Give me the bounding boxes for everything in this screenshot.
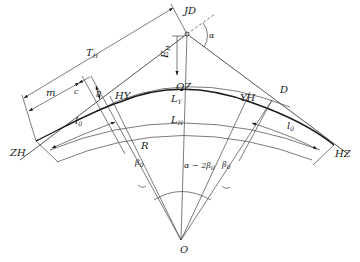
beta0-left-arc [138,185,146,187]
label-o: O [180,244,188,255]
label-c: c [74,87,79,96]
label-hz: HZ [334,148,352,159]
alpha-arc [203,23,208,47]
zh-extension-line [36,141,58,162]
th-extension-left [22,95,36,141]
right-tangent-line [187,34,348,154]
label-m: m [46,87,55,98]
lh-arc [57,135,312,162]
th-dimension-line [24,8,173,98]
label-p: p [96,88,101,97]
label-l0-left: l0 [75,115,82,127]
center-line [181,34,187,240]
label-hy: HY [114,90,132,101]
curve-diagram: JD α TH EH m c p HY QZ YH D ZH HZ LY LH … [0,0,360,262]
ly-arc [50,123,320,150]
label-beta0-left: β0 [134,158,144,168]
label-d: D [279,84,288,95]
label-qz: QZ [176,81,192,92]
label-ly: LY [170,93,183,105]
radius-line-right-outer [181,100,272,240]
label-lh: LH [170,114,184,126]
label-l0-right: l0 [287,120,294,132]
label-alpha: α [209,31,215,40]
label-zh: ZH [9,147,26,158]
label-eh: EH [159,45,171,59]
hz-extension-line [313,145,334,165]
label-r: R [140,140,149,151]
label-beta0-right: β0 [221,160,231,170]
label-center-angle: α − 2β0 [184,161,215,171]
label-th: TH [86,47,99,59]
label-yh: YH [240,92,256,103]
beta0-right-arc [222,186,230,188]
l0-left-dimension [52,122,115,148]
label-jd: JD [182,5,196,16]
diagram-canvas: JD α TH EH m c p HY QZ YH D ZH HZ LY LH … [0,0,360,262]
